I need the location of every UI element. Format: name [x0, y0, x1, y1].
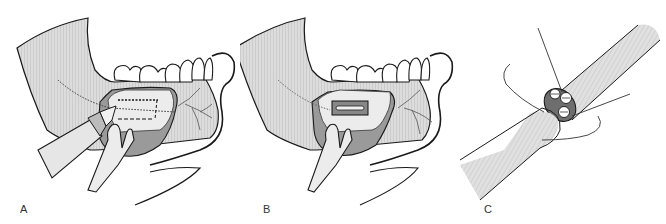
- panel-c: C: [460, 0, 666, 224]
- chin-outline: [360, 168, 418, 206]
- panel-a: A: [0, 0, 240, 224]
- teeth: [114, 58, 212, 82]
- panel-b: B: [240, 0, 460, 224]
- proximal-nerve-stump: [460, 112, 558, 200]
- teeth: [331, 58, 429, 82]
- panel-b-illustration: [240, 0, 460, 224]
- panel-label-a: A: [20, 204, 27, 215]
- exposed-nerve: [336, 106, 364, 110]
- panel-label-b: B: [263, 204, 270, 215]
- panel-a-illustration: [0, 0, 240, 224]
- panel-label-c: C: [484, 204, 492, 215]
- surgical-figure: A: [0, 0, 666, 224]
- chin-outline: [135, 168, 200, 206]
- panel-c-illustration: [460, 0, 666, 224]
